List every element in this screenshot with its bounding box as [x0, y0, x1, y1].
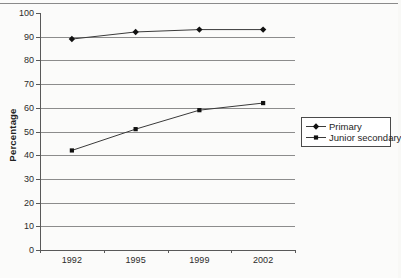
- y-axis-title: Percentage: [7, 100, 19, 170]
- svg-text:80: 80: [24, 55, 34, 65]
- svg-text:1995: 1995: [126, 255, 146, 265]
- svg-text:40: 40: [24, 150, 34, 160]
- legend-label-junior-secondary: Junior secondary: [329, 132, 401, 143]
- svg-text:10: 10: [24, 221, 34, 231]
- svg-text:100: 100: [19, 8, 34, 18]
- legend-label-primary: Primary: [329, 121, 362, 132]
- svg-text:1992: 1992: [62, 255, 82, 265]
- legend-item-primary: Primary: [306, 121, 387, 132]
- svg-text:1999: 1999: [189, 255, 209, 265]
- legend-marker-junior-secondary-icon: [306, 133, 326, 142]
- svg-text:60: 60: [24, 103, 34, 113]
- legend: Primary Junior secondary: [301, 117, 391, 147]
- svg-text:0: 0: [29, 245, 34, 255]
- svg-text:2002: 2002: [253, 255, 273, 265]
- svg-text:90: 90: [24, 32, 34, 42]
- svg-text:30: 30: [24, 174, 34, 184]
- svg-text:50: 50: [24, 127, 34, 137]
- svg-text:70: 70: [24, 79, 34, 89]
- legend-marker-primary-icon: [306, 122, 326, 131]
- legend-item-junior-secondary: Junior secondary: [306, 132, 387, 143]
- svg-text:20: 20: [24, 198, 34, 208]
